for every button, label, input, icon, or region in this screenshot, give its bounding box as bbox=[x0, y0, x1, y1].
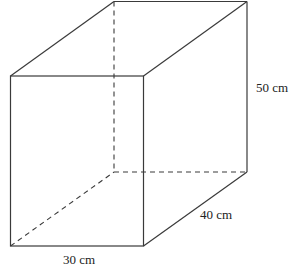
top-right-edge bbox=[144, 2, 248, 77]
width-label: 30 cm bbox=[63, 252, 95, 268]
depth-label: 40 cm bbox=[200, 207, 232, 223]
height-label: 50 cm bbox=[256, 80, 288, 96]
top-left-edge bbox=[11, 2, 115, 77]
front-face bbox=[11, 76, 144, 246]
hidden-bottom-left-edge bbox=[11, 172, 115, 246]
cuboid-diagram bbox=[0, 0, 294, 270]
